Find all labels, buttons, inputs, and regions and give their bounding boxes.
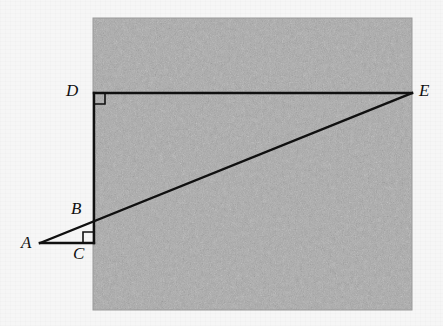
geometry-figure: [0, 0, 443, 326]
vertex-label-A: A: [21, 234, 31, 251]
vertex-label-C: C: [73, 245, 84, 262]
right-angle-marker-C: [83, 232, 94, 243]
vertex-label-E: E: [419, 82, 429, 99]
vertex-label-B: B: [71, 200, 81, 217]
diagram-canvas: A B C D E: [0, 0, 443, 326]
vertex-label-D: D: [66, 82, 78, 99]
gray-textured-square: [93, 18, 412, 310]
